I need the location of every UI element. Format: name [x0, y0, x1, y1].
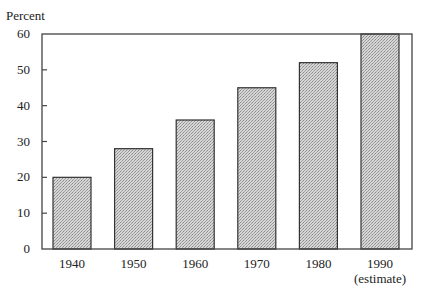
bar-1980 — [299, 63, 337, 249]
y-tick-label: 0 — [6, 241, 30, 257]
y-tick-label: 20 — [6, 169, 30, 185]
y-tick-label: 40 — [6, 98, 30, 114]
y-tick-label: 10 — [6, 205, 30, 221]
x-tick-label: 1990(estimate) — [345, 256, 415, 286]
x-tick-label: 1970 — [222, 256, 292, 271]
y-tick-label: 50 — [6, 62, 30, 78]
bar-1970 — [238, 88, 276, 249]
y-tick-label: 30 — [6, 134, 30, 150]
x-tick-label: 1950 — [99, 256, 169, 271]
x-tick-label: 1980 — [283, 256, 353, 271]
bar-1990 — [361, 34, 399, 249]
bar-chart: Percent 0102030405060 194019501960197019… — [0, 0, 423, 292]
plot-area — [0, 0, 423, 292]
y-tick-label: 60 — [6, 26, 30, 42]
bar-1960 — [176, 120, 214, 249]
bar-1940 — [53, 177, 91, 249]
bar-1950 — [115, 149, 153, 249]
x-tick-label: 1960 — [160, 256, 230, 271]
x-tick-label: 1940 — [37, 256, 107, 271]
plot-frame — [42, 34, 412, 249]
